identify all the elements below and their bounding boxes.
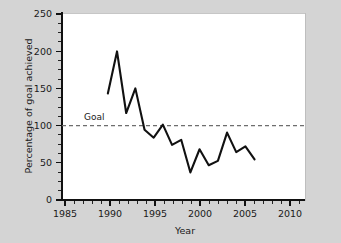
chart-figure: 0 50 100 150 200 250 1985 1990 1995 2000…: [0, 0, 341, 243]
plot-area-background: [62, 13, 305, 200]
y-tick-label-50: 50: [40, 157, 52, 168]
y-tick-label-250: 250: [34, 8, 52, 19]
line-chart: 0 50 100 150 200 250 1985 1990 1995 2000…: [0, 0, 341, 243]
x-tick-label-1985: 1985: [53, 208, 77, 219]
y-tick-label-150: 150: [34, 83, 52, 94]
x-tick-label-1990: 1990: [98, 208, 122, 219]
y-axis-title: Percentage of goal achieved: [23, 38, 34, 173]
x-tick-label-2010: 2010: [278, 208, 302, 219]
x-tick-label-2005: 2005: [233, 208, 257, 219]
x-tick-label-1995: 1995: [143, 208, 167, 219]
goal-annotation-label: Goal: [84, 112, 105, 122]
x-tick-label-2000: 2000: [188, 208, 212, 219]
y-tick-label-200: 200: [34, 46, 52, 57]
y-tick-label-0: 0: [46, 194, 52, 205]
x-axis-title: Year: [174, 225, 195, 236]
y-tick-label-100: 100: [34, 120, 52, 131]
